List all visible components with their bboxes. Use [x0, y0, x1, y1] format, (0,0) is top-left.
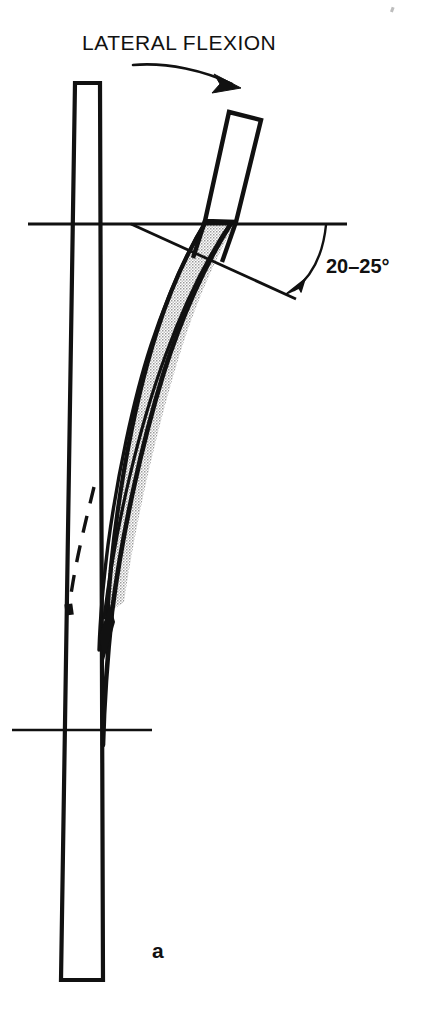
lateral-flexion-diagram: LATERAL FLEXION — [0, 0, 421, 1021]
curved-arrow-icon — [133, 64, 241, 93]
angle-label: 20–25° — [326, 255, 390, 277]
figure-root: LATERAL FLEXION — [0, 0, 421, 1021]
angle-arc-arrow-icon — [286, 225, 326, 294]
scan-speck — [390, 7, 395, 13]
flexed-column-shaft — [99, 221, 232, 745]
page-title: LATERAL FLEXION — [82, 31, 276, 54]
panel-label: a — [152, 939, 164, 962]
